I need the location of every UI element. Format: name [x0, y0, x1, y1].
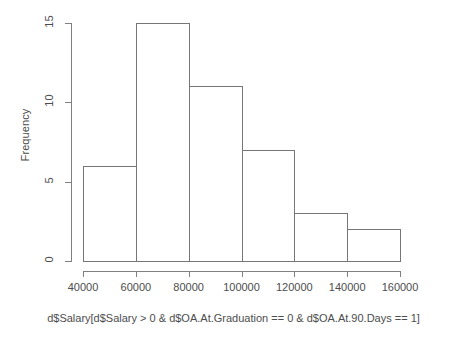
- histogram-bar: [136, 23, 190, 262]
- histogram-plot: Frequency 051015 40000600008000010000012…: [0, 0, 467, 348]
- histogram-bar: [189, 86, 243, 262]
- histogram-bar: [347, 229, 401, 262]
- histogram-bars: [0, 0, 467, 348]
- x-axis-caption: d$Salary[d$Salary > 0 & d$OA.At.Graduati…: [0, 312, 467, 324]
- histogram-bar: [294, 213, 348, 262]
- histogram-bar: [242, 150, 295, 262]
- histogram-bar: [83, 166, 137, 262]
